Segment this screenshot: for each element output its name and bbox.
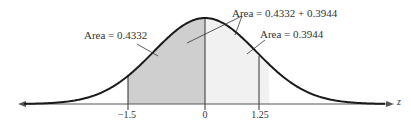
tick-label-pos: 1.25 — [251, 109, 269, 120]
axis-arrow-right — [386, 101, 394, 107]
normal-curve-chart — [0, 0, 411, 125]
axis-label-z: z — [397, 96, 401, 107]
annotation-total-area: Area = 0.4332 + 0.3944 — [232, 7, 337, 19]
annotation-left-area: Area = 0.4332 — [84, 29, 147, 41]
tick-label-neg: −1.5 — [118, 109, 136, 120]
tick-label-zero: 0 — [203, 109, 208, 120]
annotation-right-area: Area = 0.3944 — [260, 28, 323, 40]
